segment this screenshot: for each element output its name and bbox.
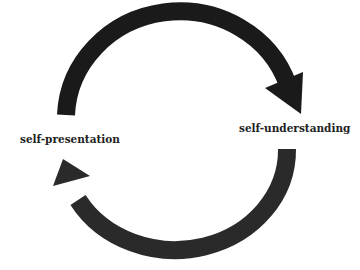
node-self-presentation: self-presentation	[20, 133, 120, 145]
arrowhead-presentation-icon	[53, 159, 90, 186]
node-self-understanding: self-understanding	[239, 122, 350, 134]
arrow-presentation-to-understanding	[66, 11, 288, 115]
arrow-understanding-to-presentation	[78, 149, 287, 250]
